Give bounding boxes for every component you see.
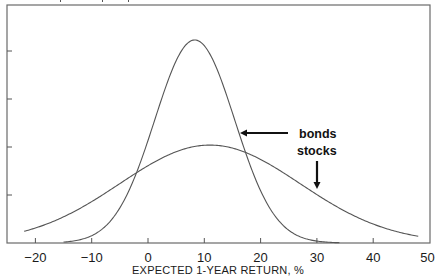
stocks-label: stocks bbox=[297, 144, 337, 158]
bonds-label: bonds bbox=[299, 127, 337, 141]
x-tick-label: 40 bbox=[366, 250, 380, 265]
x-tick-label: −20 bbox=[24, 250, 46, 265]
x-tick-label: −10 bbox=[81, 250, 103, 265]
stocks-annotation: stocks bbox=[297, 144, 337, 189]
bonds-arrowhead-icon bbox=[240, 130, 247, 137]
x-tick-label: 20 bbox=[253, 250, 267, 265]
y-axis-ticks bbox=[7, 51, 12, 195]
bonds-annotation: bonds bbox=[240, 127, 337, 141]
x-tick-label: 30 bbox=[310, 250, 324, 265]
plot-frame bbox=[7, 5, 430, 243]
x-tick-label: 50 bbox=[420, 250, 434, 265]
x-tick-label: 0 bbox=[144, 250, 151, 265]
distribution-chart: −20−1001020304050 bonds stocks EXPECTED … bbox=[0, 0, 437, 280]
x-axis-title: EXPECTED 1-YEAR RETURN, % bbox=[132, 264, 304, 276]
x-tick-label: 10 bbox=[197, 250, 211, 265]
x-axis-tick-labels: −20−1001020304050 bbox=[24, 250, 434, 265]
bonds-curve bbox=[64, 40, 340, 243]
stocks-curve bbox=[24, 145, 418, 236]
stocks-arrowhead-icon bbox=[314, 182, 321, 189]
truncated-title bbox=[60, 0, 129, 2]
